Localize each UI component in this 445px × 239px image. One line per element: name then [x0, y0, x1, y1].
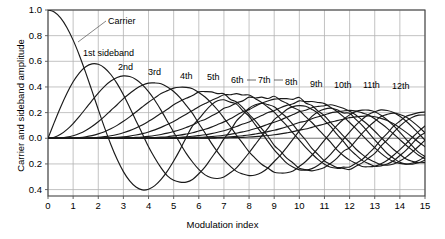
fourth-label: 4th — [180, 72, 193, 81]
carrier-leader-line — [78, 21, 106, 42]
sixth-label: 6th — [231, 76, 244, 85]
twelfth-label: 12th — [392, 82, 410, 91]
curve-4th — [48, 87, 425, 173]
eleventh-label: 11th — [363, 81, 380, 90]
third-label: 3rd — [148, 68, 161, 77]
plot-area — [0, 0, 445, 239]
carrier-label: Carrier — [108, 17, 136, 26]
tenth-label: 10th — [334, 81, 352, 90]
ninth-label: 9th — [310, 80, 323, 89]
fifth-label: 5th — [207, 73, 220, 82]
seventh-label: 7th — [258, 76, 271, 85]
bessel-chart: Carrier and sideband amplitude Modulatio… — [0, 0, 445, 239]
curves-group — [48, 10, 425, 190]
eighth-label: 8th — [285, 78, 298, 87]
first-sideband-label: 1st sideband — [83, 49, 134, 58]
second-label: 2nd — [118, 63, 133, 72]
